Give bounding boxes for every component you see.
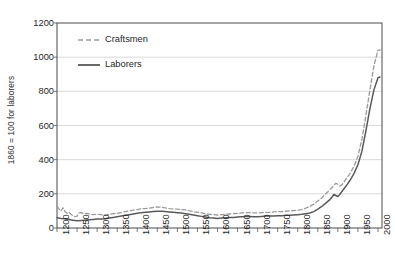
x-axis-tick-label: 1800 xyxy=(302,214,312,235)
x-axis-tick-label: 1650 xyxy=(242,214,252,235)
x-axis-tick-label: 1250 xyxy=(81,214,91,235)
x-axis-tick-label: 1200 xyxy=(61,214,71,235)
legend-label-laborers: Laborers xyxy=(105,59,142,69)
x-axis-tick-label: 1550 xyxy=(201,214,211,235)
x-axis-tick-label: 1900 xyxy=(342,214,352,235)
x-axis-tick-label: 1950 xyxy=(362,214,372,235)
chart-figure: 1860 = 100 for laborers 0200400600800100… xyxy=(0,0,395,271)
x-axis-tick-label: 1600 xyxy=(221,214,231,235)
x-axis-tick-label: 1300 xyxy=(101,214,111,235)
x-axis-tick-label: 1850 xyxy=(322,214,332,235)
x-axis-tick-label: 1400 xyxy=(141,214,151,235)
x-axis-tick-label: 1700 xyxy=(262,214,272,235)
x-axis-tick-label: 1500 xyxy=(181,214,191,235)
x-axis-tick-label: 1350 xyxy=(121,214,131,235)
x-axis-tick-label: 1450 xyxy=(161,214,171,235)
legend-label-craftsmen: Craftsmen xyxy=(105,34,148,44)
x-axis-tick-label: 1750 xyxy=(282,214,292,235)
x-axis-tick-labels: 1200125013001350140014501500155016001650… xyxy=(0,0,395,271)
x-axis-tick-label: 2000 xyxy=(382,214,392,235)
